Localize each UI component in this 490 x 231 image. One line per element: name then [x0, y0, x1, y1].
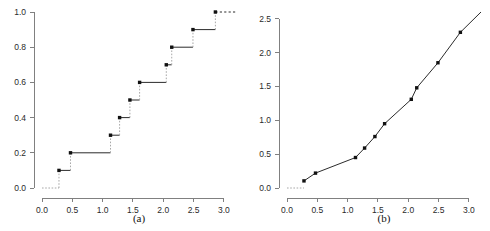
- y-tick-label: 0.0: [259, 183, 271, 193]
- data-point-marker: [165, 63, 168, 66]
- panel-b: 0.00.51.01.52.02.50.00.51.01.52.02.53.0(…: [245, 0, 490, 231]
- data-point-marker: [191, 28, 194, 31]
- x-tick-label: 1.0: [342, 205, 354, 215]
- curve-segment: [375, 124, 385, 137]
- data-point-marker: [383, 122, 386, 125]
- data-point-marker: [109, 134, 112, 137]
- x-tick-label: 2.5: [433, 205, 445, 215]
- x-tick-label: 2.0: [157, 205, 169, 215]
- y-tick-label: 0.6: [14, 77, 26, 87]
- x-tick-label: 3.0: [463, 205, 475, 215]
- y-tick-label: 1.0: [259, 115, 271, 125]
- data-point-marker: [128, 98, 131, 101]
- x-tick-label: 2.5: [188, 205, 200, 215]
- data-point-marker: [363, 146, 366, 149]
- curve-segment: [385, 99, 412, 123]
- x-tick-label: 0.5: [66, 205, 78, 215]
- panel-caption: (a): [133, 212, 146, 225]
- curve-segment: [365, 137, 375, 149]
- curve-segment: [417, 63, 438, 88]
- data-point-marker: [170, 46, 173, 49]
- y-tick-label: 2.5: [259, 14, 271, 24]
- y-tick-label: 0.4: [14, 113, 26, 123]
- x-tick-label: 1.0: [97, 205, 109, 215]
- data-point-marker: [118, 116, 121, 119]
- data-point-marker: [373, 135, 376, 138]
- data-point-marker: [302, 179, 305, 182]
- y-tick-label: 0.8: [14, 42, 26, 52]
- x-tick-label: 3.0: [218, 205, 230, 215]
- plot-b-svg: 0.00.51.01.52.02.50.00.51.01.52.02.53.0(…: [245, 0, 490, 231]
- plot-a-svg: 0.00.20.40.60.81.00.00.51.01.52.02.53.0(…: [0, 0, 245, 231]
- x-tick-label: 2.0: [402, 205, 414, 215]
- y-tick-label: 1.5: [259, 81, 271, 91]
- figure-container: 0.00.20.40.60.81.00.00.51.01.52.02.53.0(…: [0, 0, 490, 231]
- y-tick-label: 0.0: [14, 183, 26, 193]
- data-point-marker: [459, 31, 462, 34]
- y-tick-label: 1.0: [14, 7, 26, 17]
- data-point-marker: [138, 81, 141, 84]
- data-point-marker: [57, 169, 60, 172]
- data-point-marker: [214, 10, 217, 13]
- y-tick-label: 2.0: [259, 48, 271, 58]
- y-tick-label: 0.5: [259, 149, 271, 159]
- data-point-marker: [415, 86, 418, 89]
- curve-segment: [411, 88, 416, 100]
- data-point-marker: [314, 171, 317, 174]
- data-point-marker: [410, 98, 413, 101]
- y-tick-label: 0.2: [14, 148, 26, 158]
- curve-segment: [315, 158, 355, 174]
- x-tick-label: 0.5: [311, 205, 323, 215]
- panel-a: 0.00.20.40.60.81.00.00.51.01.52.02.53.0(…: [0, 0, 245, 231]
- panel-caption: (b): [378, 212, 391, 225]
- data-point-marker: [436, 61, 439, 64]
- data-point-marker: [69, 151, 72, 154]
- x-tick-label: 0.0: [281, 205, 293, 215]
- curve-segment: [438, 32, 460, 62]
- curve-tail: [460, 12, 481, 32]
- x-tick-label: 0.0: [36, 205, 48, 215]
- data-point-marker: [354, 156, 357, 159]
- curve-segment: [304, 173, 316, 181]
